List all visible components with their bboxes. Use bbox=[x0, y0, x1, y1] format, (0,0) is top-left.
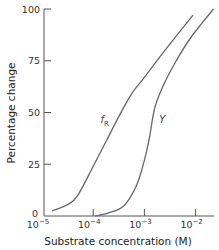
curve-label-Y: Y bbox=[159, 114, 166, 125]
y-tick-label: 75 bbox=[28, 55, 40, 66]
curve-Y bbox=[95, 9, 213, 216]
x-tick-label: 10−4 bbox=[78, 218, 101, 230]
curve-label-fR: fR bbox=[101, 114, 110, 128]
y-tick-label: 100 bbox=[22, 4, 40, 15]
y-axis-title: Percentage change bbox=[5, 62, 17, 163]
x-axis-title: Substrate concentration (M) bbox=[44, 235, 192, 247]
y-tick-label: 50 bbox=[28, 107, 40, 118]
curve-fR bbox=[52, 15, 193, 211]
x-tick-label: 10−5 bbox=[27, 218, 49, 230]
y-tick-label: 25 bbox=[28, 159, 40, 170]
y-tick-label: 0 bbox=[32, 208, 38, 219]
x-tick-label: 10−3 bbox=[129, 218, 151, 230]
curve-labels: fRY bbox=[101, 114, 167, 128]
x-tick-label: 10−2 bbox=[180, 218, 202, 230]
axes: 025507510010−510−410−310−2 bbox=[22, 4, 214, 231]
curves bbox=[52, 9, 213, 216]
chart: 025507510010−510−410−310−2 fRY Percentag… bbox=[0, 0, 219, 250]
